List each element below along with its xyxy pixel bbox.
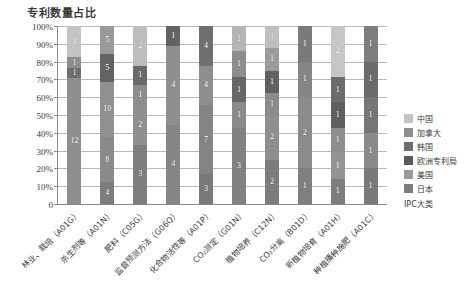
- y-tick-label: 80%: [37, 57, 54, 67]
- bar-segment[interactable]: 1: [364, 62, 378, 98]
- bar-segment[interactable]: 1: [331, 128, 345, 153]
- bar-slot: 551084: [91, 26, 124, 204]
- legend-item[interactable]: 中国: [404, 112, 474, 125]
- legend-item[interactable]: 韩国: [404, 140, 474, 153]
- bar-segment[interactable]: 10: [100, 82, 114, 138]
- bar-segment-label: 2: [270, 178, 274, 186]
- bar-segment-label: 1: [369, 75, 373, 83]
- stacked-bar[interactable]: 11113: [232, 26, 246, 204]
- bar-segment[interactable]: 4: [199, 66, 213, 106]
- bar-segment[interactable]: 1: [265, 48, 279, 70]
- bar-segment-label: 1: [369, 40, 373, 48]
- bar-segment[interactable]: 4: [166, 125, 180, 204]
- bar-segment-label: 1: [72, 69, 76, 77]
- stacked-bar[interactable]: 1121: [298, 26, 312, 204]
- bar-segment[interactable]: 2: [265, 160, 279, 205]
- bar-segment-label: 2: [138, 121, 142, 129]
- bar-segment-label: 2: [270, 133, 274, 141]
- y-tick-label: 40%: [37, 129, 54, 139]
- bar-segment[interactable]: 4: [100, 182, 114, 204]
- bar-segment-label: 1: [336, 187, 340, 195]
- legend-item[interactable]: 加拿大: [404, 126, 474, 139]
- legend-item[interactable]: 美国: [404, 168, 474, 181]
- bar-segment-label: 1: [336, 136, 340, 144]
- bar-segment-label: 4: [204, 42, 208, 50]
- bar-segment-label: 2: [138, 42, 142, 50]
- bar-segment[interactable]: 1: [364, 97, 378, 133]
- bar-slot: 1121: [288, 26, 321, 204]
- bar-segment-label: 12: [70, 137, 78, 145]
- bar-segment[interactable]: 4: [166, 46, 180, 125]
- bar-segment[interactable]: 3: [199, 174, 213, 204]
- chart-title: 专利数量占比: [27, 4, 96, 20]
- bar-segment[interactable]: 1: [166, 26, 180, 46]
- stacked-bar[interactable]: 21123: [133, 26, 147, 204]
- bar-segment[interactable]: 1: [133, 66, 147, 86]
- bar-segment[interactable]: 1: [265, 71, 279, 93]
- bar-segment[interactable]: 1: [232, 102, 246, 127]
- bar-segment[interactable]: 8: [100, 137, 114, 182]
- x-axis-labels: 林业、栽培（A01G）杀生剂等（A01N）肥料（C05G）监督预测方法（G06Q…: [57, 206, 387, 306]
- bar-segment[interactable]: 1: [232, 77, 246, 102]
- bar-segment[interactable]: 2: [133, 26, 147, 66]
- bar-segment[interactable]: 5: [100, 54, 114, 82]
- bar-segment[interactable]: 2: [265, 115, 279, 160]
- bar-segment-label: 1: [336, 111, 340, 119]
- stacked-bar[interactable]: 11111: [364, 26, 378, 204]
- stacked-bar[interactable]: 4473: [199, 26, 213, 204]
- bar-segment[interactable]: 1: [331, 77, 345, 102]
- bar-segment-label: 8: [105, 156, 109, 164]
- bar-segment[interactable]: 1: [232, 51, 246, 76]
- bar-segment[interactable]: 1: [331, 102, 345, 127]
- bar-segment[interactable]: 1: [298, 26, 312, 62]
- bar-segment[interactable]: 4: [199, 26, 213, 66]
- bar-segment[interactable]: 1: [298, 62, 312, 98]
- legend-item[interactable]: 欧洲专利局: [404, 154, 474, 167]
- bar-segment[interactable]: 2: [133, 105, 147, 145]
- bar-segment[interactable]: 12: [67, 78, 81, 204]
- bar-segment-label: 1: [303, 75, 307, 83]
- bar-segment[interactable]: 1: [265, 93, 279, 115]
- bar-segment[interactable]: 2: [298, 97, 312, 168]
- bar-slot: 31112: [58, 26, 91, 204]
- stacked-bar[interactable]: 211111: [331, 26, 345, 204]
- legend-label: 韩国: [417, 141, 433, 152]
- bar-segment[interactable]: 5: [100, 26, 114, 54]
- bar-segment[interactable]: 1: [67, 68, 81, 78]
- stacked-bar[interactable]: 144: [166, 26, 180, 204]
- bar-slot: 11113: [223, 26, 256, 204]
- stacked-bar[interactable]: 551084: [100, 26, 114, 204]
- bar-segment[interactable]: 1: [232, 26, 246, 51]
- bar-segment[interactable]: 1: [265, 26, 279, 48]
- legend-swatch: [404, 142, 413, 151]
- y-tick-label: 50%: [37, 111, 54, 121]
- bar-segment[interactable]: 1: [364, 133, 378, 169]
- bar-segment-label: 1: [270, 33, 274, 41]
- bar-slot: 4473: [190, 26, 223, 204]
- bar-segment[interactable]: 1: [331, 179, 345, 204]
- legend-swatch: [404, 184, 413, 193]
- bar-segment-label: 5: [105, 64, 109, 72]
- bar-segment[interactable]: 3: [232, 128, 246, 204]
- stacked-bar[interactable]: 31112: [67, 26, 81, 204]
- bar-segment[interactable]: 1: [67, 57, 81, 67]
- bar-segment-label: 1: [138, 71, 142, 79]
- bar-segment[interactable]: 1: [364, 26, 378, 62]
- bar-segment[interactable]: 2: [331, 26, 345, 77]
- legend-item[interactable]: 日本: [404, 182, 474, 195]
- bar-segment[interactable]: 7: [199, 105, 213, 174]
- bar-segment-label: 4: [204, 81, 208, 89]
- bar-segment[interactable]: 1: [133, 85, 147, 105]
- bar-segment[interactable]: 1: [331, 153, 345, 178]
- bar-segment-label: 1: [369, 182, 373, 190]
- bar-segment[interactable]: 1: [298, 168, 312, 204]
- x-axis-tick-label: 林业、栽培（A01G）: [18, 208, 81, 271]
- bar-segment[interactable]: 1: [364, 168, 378, 204]
- bar-segment[interactable]: 3: [67, 26, 81, 57]
- bar-segment[interactable]: 3: [133, 145, 147, 204]
- plot-area: 010%20%30%40%50%60%70%80%90%100% 3111255…: [57, 26, 387, 205]
- legend-label: 美国: [417, 169, 433, 180]
- bar-segment-label: 1: [72, 59, 76, 67]
- stacked-bar[interactable]: 111122: [265, 26, 279, 204]
- bar-segment-label: 1: [237, 35, 241, 43]
